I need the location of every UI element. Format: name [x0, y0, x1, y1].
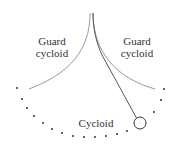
cycloidal-pendulum-diagram: Guard cycloid Guard cycloid Cycloid	[0, 0, 172, 146]
pendulum-bob	[134, 117, 146, 129]
cycloid-dotted-path	[16, 87, 165, 138]
left-guard-label-line2: cycloid	[30, 47, 74, 59]
pendulum-string	[93, 13, 137, 118]
right-guard-label-line1: Guard	[115, 35, 159, 47]
left-guard-label: Guard cycloid	[30, 35, 74, 59]
cycloid-label: Cycloid	[74, 117, 118, 129]
left-guard-label-line1: Guard	[30, 35, 74, 47]
right-guard-label: Guard cycloid	[115, 35, 159, 59]
right-guard-label-line2: cycloid	[115, 47, 159, 59]
